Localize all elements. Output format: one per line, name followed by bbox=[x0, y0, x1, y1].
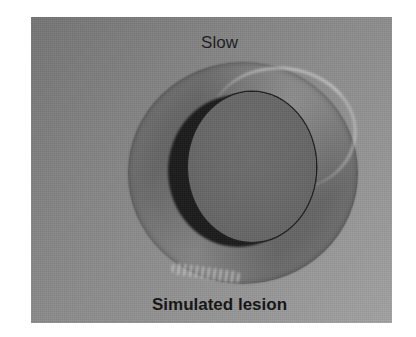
speed-label: Slow bbox=[31, 33, 392, 53]
lesion-photo: Slow Simulated lesion bbox=[31, 17, 392, 323]
inner-disc bbox=[188, 92, 316, 242]
caption-label: Simulated lesion bbox=[31, 295, 392, 315]
